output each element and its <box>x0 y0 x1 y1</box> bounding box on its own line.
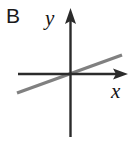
x-axis-label: x <box>111 80 120 102</box>
y-axis-label: y <box>45 7 54 29</box>
graph-figure: B y x <box>0 0 136 143</box>
coordinate-plane-graphic <box>0 0 136 143</box>
